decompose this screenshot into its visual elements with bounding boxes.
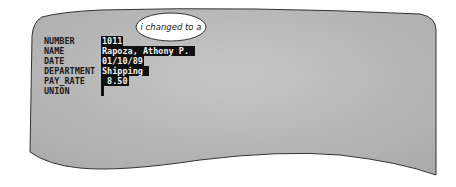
annotation-callout: i changed to a — [136, 12, 206, 42]
field-label: DATE — [44, 56, 64, 66]
field-row-name: NAME Rapoza, Athony P. — [44, 46, 64, 56]
field-label: NAME — [44, 46, 64, 56]
field-row-union: UNION — [44, 86, 64, 96]
record-form: NUMBER 1011 NAME Rapoza, Athony P. DATE … — [44, 36, 64, 96]
field-label: NUMBER — [44, 36, 75, 46]
name-field[interactable]: Rapoza, Athony P. — [101, 46, 195, 56]
field-row-date: DATE 01/10/89 — [44, 56, 64, 66]
union-field-cursor[interactable] — [101, 86, 104, 96]
field-row-department: DEPARTMENT Shipping — [44, 66, 64, 76]
pay-rate-field[interactable]: 8.50 — [101, 76, 129, 86]
callout-text: i changed to a — [136, 12, 206, 42]
field-label: PAY_RATE — [44, 76, 85, 86]
field-row-number: NUMBER 1011 — [44, 36, 64, 46]
department-field[interactable]: Shipping — [101, 66, 149, 76]
field-label: UNION — [44, 86, 70, 96]
field-row-pay-rate: PAY_RATE 8.50 — [44, 76, 64, 86]
date-field[interactable]: 01/10/89 — [101, 56, 144, 66]
number-field[interactable]: 1011 — [101, 36, 123, 46]
field-label: DEPARTMENT — [44, 66, 95, 76]
